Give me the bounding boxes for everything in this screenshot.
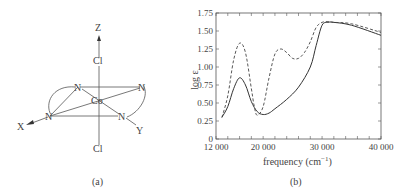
dashed-series-line xyxy=(222,22,381,118)
co-label: Co xyxy=(91,95,103,106)
chart-frame xyxy=(216,13,381,139)
y-tick-label: 1.25 xyxy=(197,44,213,54)
panel-a-caption: (a) xyxy=(92,176,103,188)
x-tick-label: 20 000 xyxy=(251,142,276,152)
panel-b-caption: (b) xyxy=(290,176,302,188)
x-tick-label: 40 000 xyxy=(369,142,394,152)
y-axis-title: log ε xyxy=(189,70,200,89)
solid-series-line xyxy=(222,22,381,117)
z-axis-label: Z xyxy=(95,22,101,33)
y-tick-label: 0.50 xyxy=(197,98,213,108)
y-axis-label: Y xyxy=(136,125,143,136)
figure: Z Cl N Co N N N X Y Cl (a) 00.250.500.75… xyxy=(0,0,405,194)
x-tick-label: 30 000 xyxy=(310,142,335,152)
x-tick-label: 12 000 xyxy=(204,142,229,152)
cl-bottom-label: Cl xyxy=(93,143,103,154)
x-axis-title: frequency (cm−1) xyxy=(263,155,332,168)
x-axis-label: X xyxy=(17,121,25,132)
n2-label: N xyxy=(45,111,52,122)
x-tick-labels: 12 00020 00030 00040 000 xyxy=(204,142,394,152)
panel-a-diagram xyxy=(26,35,145,145)
n3-label: N xyxy=(118,111,125,122)
n1-label: N xyxy=(74,82,81,93)
y-tick-label: 1.75 xyxy=(197,8,213,18)
y-tick-label: 0.25 xyxy=(197,116,213,126)
y-tick-label: 1.50 xyxy=(197,26,213,36)
cl-top-label: Cl xyxy=(93,55,103,66)
n4-label: N xyxy=(138,82,145,93)
